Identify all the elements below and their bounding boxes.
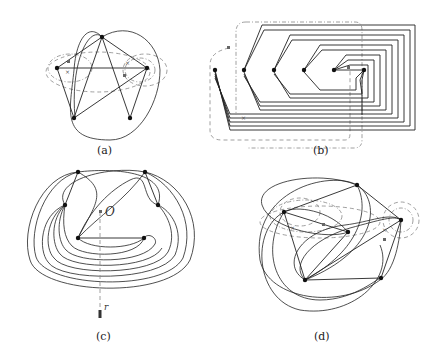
ray-arrow-icon <box>99 310 102 318</box>
panel-c-diagram <box>27 170 194 318</box>
caption-b: (b) <box>313 144 329 157</box>
panel-b-diagram: × <box>210 22 415 148</box>
svg-text:×: × <box>125 59 130 66</box>
svg-text:×: × <box>382 226 387 233</box>
svg-text:×: × <box>65 68 70 75</box>
panel-d-diagram: × × <box>259 178 419 311</box>
panel-a-diagram: × × <box>46 31 167 140</box>
ray-label: r <box>104 302 109 312</box>
figure-canvas: × × × <box>0 0 436 356</box>
svg-text:×: × <box>290 224 295 231</box>
svg-text:×: × <box>241 114 246 121</box>
caption-c: (c) <box>96 330 111 343</box>
caption-a: (a) <box>97 144 112 157</box>
origin-label: O <box>105 205 115 219</box>
caption-d: (d) <box>314 330 330 343</box>
